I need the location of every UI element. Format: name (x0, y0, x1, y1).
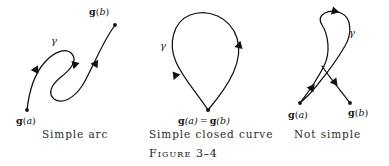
closed-curve-arrowhead-right (234, 40, 244, 49)
bold-g-glyph: g (348, 107, 355, 118)
not-simple-gamma-label: γ (349, 28, 355, 38)
closed-curve-arrowhead-left (170, 71, 181, 81)
not-simple-end-label: g(b) (348, 108, 368, 118)
caption-simple-closed-curve: Simple closed curve (149, 129, 273, 140)
bold-g-glyph: g (178, 115, 185, 126)
simple-arc-start-dot (25, 108, 29, 112)
figure-caption-number: 3–4 (196, 147, 217, 160)
simple-arc-end-dot (113, 23, 117, 27)
panel-simple-arc-graphic (25, 23, 117, 112)
paren-close-glyph: ) (105, 6, 109, 17)
arg-a-glyph: (a) (185, 115, 198, 126)
arg-b-glyph: (b) (216, 115, 230, 126)
not-simple-arrowhead-top (331, 6, 340, 16)
bold-g-glyph: g (16, 115, 23, 126)
caption-simple-arc: Simple arc (42, 129, 108, 140)
closed-curve-gamma-label: γ (160, 41, 166, 51)
simple-arc-path (27, 25, 115, 110)
not-simple-start-dot (298, 101, 302, 105)
bold-g-glyph: g (288, 109, 295, 120)
simple-arc-gamma-label: γ (51, 36, 57, 46)
bold-g-glyph: g (89, 6, 96, 17)
simple-arc-start-label: g(a) (16, 116, 36, 126)
paren-close-glyph: ) (364, 107, 368, 118)
not-simple-start-label: g(a) (288, 110, 308, 120)
not-simple-path (300, 11, 350, 103)
panel-simple-closed-curve-graphic (170, 13, 245, 112)
caption-not-simple: Not simple (294, 129, 361, 140)
not-simple-end-dot (348, 101, 352, 105)
simple-arc-arrowhead-2 (70, 61, 80, 70)
paren-close-glyph: ) (32, 115, 36, 126)
panel-not-simple-graphic (298, 6, 352, 104)
curve-drawing-layer: .stroke { fill: none; stroke: #111111; s… (0, 0, 389, 166)
closed-curve-joint-label: g(a)=g(b) (178, 116, 230, 126)
equals-glyph: = (198, 115, 210, 126)
figure-caption: Figure 3–4 (149, 148, 217, 159)
figure-3-4: .stroke { fill: none; stroke: #111111; s… (0, 0, 389, 166)
simple-arc-end-label: g(b) (89, 7, 109, 17)
closed-curve-joint-dot (206, 108, 210, 112)
simple-closed-curve-path (172, 13, 239, 110)
figure-caption-word: Figure (149, 147, 191, 160)
paren-close-glyph: ) (304, 109, 308, 120)
